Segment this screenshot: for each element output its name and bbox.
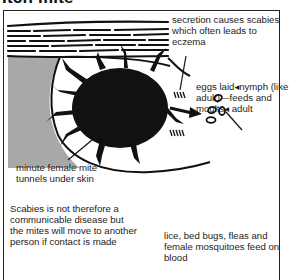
skin-layers [8,22,168,58]
life-cycle-label: eggs laid◂nymph (like adult)—feeds and m… [196,81,290,114]
other-parasites-note: lice, bed bugs, fleas and female mosquit… [164,230,284,263]
secretion-label: secretion causes scabies which often lea… [172,14,282,47]
communicability-note: Scabies is not therefore a communicable … [10,203,138,247]
tunnel-label: minute female mite tunnels under skin [16,162,126,184]
